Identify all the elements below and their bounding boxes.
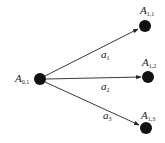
node-a12-dot (142, 71, 154, 83)
node-label-a13: A1,3 (141, 110, 155, 122)
edge-a3 (45, 82, 139, 125)
edge-label-sub: 3 (109, 116, 112, 122)
node-a13-dot (140, 122, 152, 134)
node-label-sub: 1,1 (147, 11, 155, 17)
edge-a2 (46, 77, 141, 79)
node-label-sub: 1,2 (149, 63, 157, 69)
node-a01-dot (34, 73, 46, 85)
node-label-base: A (15, 72, 22, 84)
node-label-base: A (142, 56, 149, 68)
edge-a1 (45, 29, 138, 76)
node-label-sub: 0,1 (22, 79, 30, 85)
node-label-base: A (140, 4, 147, 16)
node-label-a12: A1,2 (142, 57, 156, 69)
edge-label-a1: a1 (101, 49, 110, 61)
edge-label-a2: a2 (101, 81, 110, 93)
node-a11-dot (139, 20, 151, 32)
edge-label-sub: 2 (107, 87, 110, 93)
edge-label-sub: 1 (107, 55, 110, 61)
node-label-a11: A1,1 (140, 5, 154, 17)
node-label-base: A (141, 109, 148, 121)
node-label-sub: 1,3 (148, 116, 156, 122)
edge-label-a3: a3 (103, 110, 112, 122)
node-label-a01: A0,1 (15, 73, 29, 85)
